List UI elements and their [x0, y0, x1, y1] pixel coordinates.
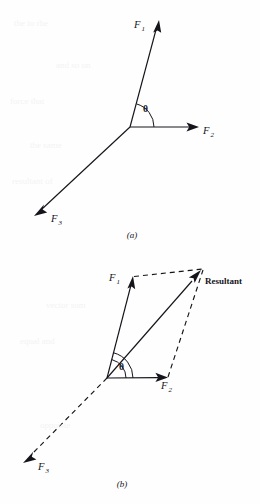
- panel-a-label-f1-subscript: 1: [142, 25, 146, 33]
- figure-root: F 1 F 2 F 3 θ (a): [0, 0, 260, 504]
- force-vector-figure: F 1 F 2 F 3 θ (a): [0, 0, 260, 504]
- panel-a: F 1 F 2 F 3 θ (a): [34, 19, 215, 240]
- panel-a-caption: (a): [127, 230, 138, 240]
- panel-b-construction-f2-to-resultant: [168, 270, 203, 377]
- panel-b: F 1 F 2 Resultant F 3 θ (b): [23, 269, 242, 489]
- panel-b-label-f1: F: [108, 272, 116, 283]
- panel-a-vector-f3-line: [42, 127, 130, 209]
- panel-a-vector-f1-arrowhead: [153, 20, 161, 33]
- panel-b-label-f1-subscript: 1: [117, 278, 121, 286]
- panel-b-label-resultant: Resultant: [205, 276, 242, 286]
- panel-a-label-f2: F: [202, 125, 210, 136]
- panel-a-label-f3: F: [50, 213, 58, 224]
- panel-a-label-f1: F: [133, 19, 141, 30]
- panel-a-label-f3-subscript: 3: [58, 219, 63, 227]
- panel-b-vector-f1-arrowhead: [127, 276, 135, 289]
- panel-b-label-theta: θ: [119, 362, 124, 372]
- panel-b-caption: (b): [117, 479, 128, 489]
- panel-a-label-theta: θ: [143, 104, 148, 114]
- panel-b-vector-f3-arrowhead: [23, 452, 36, 463]
- panel-b-vector-f3-line: [32, 378, 107, 454]
- panel-b-label-f3-subscript: 3: [45, 467, 50, 475]
- panel-b-label-f3: F: [37, 461, 45, 472]
- panel-a-label-f2-subscript: 2: [211, 131, 215, 139]
- panel-b-label-f2-subscript: 2: [169, 386, 173, 394]
- panel-b-label-f2: F: [160, 380, 168, 391]
